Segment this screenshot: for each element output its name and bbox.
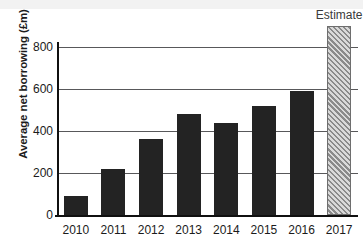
- x-tick-label-2011: 2011: [93, 223, 133, 237]
- estimate-annotation-label: Estimate: [316, 8, 363, 22]
- y-axis-line: [57, 42, 59, 217]
- bar-rect-2011: [101, 169, 125, 215]
- bar-2011: [101, 0, 125, 215]
- y-tick-label-200: 200: [5, 166, 53, 180]
- bar-rect-2013: [177, 114, 201, 215]
- bar-2010: [64, 0, 88, 215]
- y-tick-label-600: 600: [5, 82, 53, 96]
- bars-layer: [57, 0, 358, 215]
- bar-2016: [290, 0, 314, 215]
- bar-rect-2015: [252, 106, 276, 215]
- x-tick-label-2014: 2014: [206, 223, 246, 237]
- x-tick-label-2017: 2017: [319, 223, 359, 237]
- x-axis-line: [55, 215, 358, 217]
- y-tick-label-400: 400: [5, 124, 53, 138]
- x-tick-label-2013: 2013: [169, 223, 209, 237]
- y-tick-label-0: 0: [5, 208, 53, 222]
- bar-2015: [252, 0, 276, 215]
- bar-2017: [327, 0, 351, 215]
- bar-rect-2012: [139, 139, 163, 215]
- bar-rect-2016: [290, 91, 314, 215]
- bar-2014: [214, 0, 238, 215]
- x-tick-label-2012: 2012: [131, 223, 171, 237]
- x-tick-label-2010: 2010: [56, 223, 96, 237]
- y-tick-label-800: 800: [5, 40, 53, 54]
- bar-2012: [139, 0, 163, 215]
- y-axis-tick-labels: 0 200 400 600 800: [0, 0, 53, 247]
- bar-2013: [177, 0, 201, 215]
- x-tick-label-2015: 2015: [244, 223, 284, 237]
- x-tick-label-2016: 2016: [282, 223, 322, 237]
- bar-rect-2017: [327, 26, 351, 215]
- bar-rect-2010: [64, 196, 88, 215]
- bar-chart: Average net borrowing (£m) 0 200 400 600…: [0, 0, 363, 247]
- bar-rect-2014: [214, 123, 238, 215]
